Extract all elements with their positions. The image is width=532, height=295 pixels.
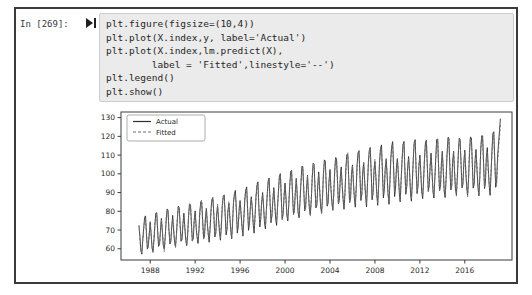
output-chart: 1988199219962000200420082012201660708090… (90, 104, 522, 284)
svg-text:130: 130 (101, 113, 116, 122)
notebook-screenshot: In [269]: plt.figure(figsize=(10,4))plt.… (0, 0, 532, 295)
cell-prompt: In [269]: (20, 19, 69, 29)
svg-text:2000: 2000 (275, 266, 294, 275)
svg-text:1992: 1992 (186, 266, 205, 275)
svg-text:2012: 2012 (410, 266, 429, 275)
svg-text:90: 90 (105, 188, 115, 197)
svg-text:110: 110 (101, 151, 116, 160)
code-line: plt.figure(figsize=(10,4)) (106, 17, 509, 31)
code-line: plt.show() (106, 85, 509, 99)
code-line: plt.legend() (106, 71, 509, 85)
code-line: plt.plot(X.index,y, label='Actual') (106, 31, 509, 45)
svg-text:120: 120 (101, 132, 116, 141)
svg-text:1996: 1996 (231, 266, 250, 275)
x-axis: 19881992199620002004200820122016 (141, 260, 475, 275)
svg-text:60: 60 (105, 244, 115, 253)
svg-text:80: 80 (105, 207, 115, 216)
code-editor[interactable]: plt.figure(figsize=(10,4))plt.plot(X.ind… (99, 13, 514, 102)
svg-text:100: 100 (101, 169, 116, 178)
play-bar-icon (94, 18, 96, 28)
svg-text:1988: 1988 (141, 266, 160, 275)
svg-text:70: 70 (105, 226, 115, 235)
legend: ActualFitted (127, 115, 205, 141)
play-triangle-icon (86, 18, 93, 28)
code-line: plt.plot(X.index,lm.predict(X), (106, 44, 509, 58)
svg-text:2004: 2004 (320, 266, 339, 275)
y-axis: 60708090100110120130 (101, 113, 121, 253)
code-line: label = 'Fitted',linestyle='--') (106, 58, 509, 72)
svg-text:Actual: Actual (156, 118, 178, 126)
run-cell-icon[interactable] (86, 18, 98, 29)
svg-text:Fitted: Fitted (156, 129, 176, 137)
svg-text:2008: 2008 (365, 266, 384, 275)
svg-text:2016: 2016 (455, 266, 474, 275)
